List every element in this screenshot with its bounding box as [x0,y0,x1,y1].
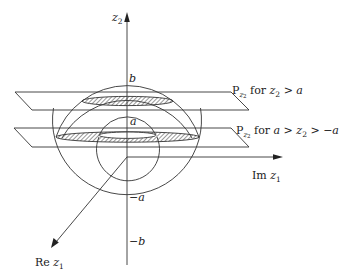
label-neg-b: −b [129,235,145,248]
lower-plane [14,128,249,147]
upper-hatched-disc [82,96,173,105]
lower-plane-label: Pz2 for a > z2 > −a [236,124,339,139]
im-arrow-icon [273,154,283,159]
im-z1-label: Im z1 [252,169,281,184]
inner-sphere-a [97,117,160,181]
upper-plane [15,92,249,110]
label-neg-a: −a [129,191,145,204]
label-b: b [129,72,136,85]
diagram-canvas: z2 b a −a −b Im z1 Re z1 Pz2 for z2 > a … [0,0,348,279]
z2-axis-label: z2 [111,11,123,26]
label-a: a [130,115,137,128]
lower-inner-hole [99,132,156,138]
re-z1-label: Re z1 [35,256,64,271]
z2-arrow-icon [124,12,130,22]
re-z1-axis [56,157,127,242]
upper-plane-label: Pz2 for z2 > a [232,84,303,99]
